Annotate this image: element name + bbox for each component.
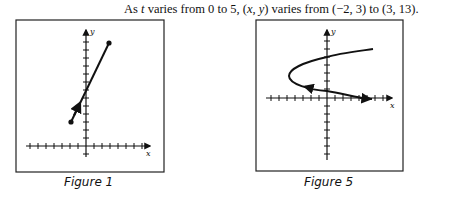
figure-1-end-point bbox=[106, 40, 111, 45]
figure-1-frame bbox=[16, 20, 164, 172]
figure-1-x-label: x bbox=[146, 149, 151, 158]
figure-1-direction-arrow bbox=[74, 103, 80, 116]
figure-5-plot: y x bbox=[256, 20, 403, 171]
figure-1-start-point bbox=[68, 119, 73, 124]
figure-5-parabola bbox=[289, 49, 373, 99]
figure-1-caption: Figure 1 bbox=[64, 175, 113, 189]
figure-1-plot: y x bbox=[16, 20, 164, 172]
figure-5-y-label: y bbox=[330, 27, 336, 36]
figure-5-end-arrow bbox=[360, 98, 370, 99]
figure-1-y-label: y bbox=[89, 27, 95, 36]
figures-canvas: y x y x bbox=[0, 0, 465, 197]
figure-5-x-label: x bbox=[390, 101, 395, 110]
figure-5-frame bbox=[256, 20, 403, 171]
figure-5-caption: Figure 5 bbox=[304, 175, 353, 189]
